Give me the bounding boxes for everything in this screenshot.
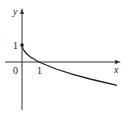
start-point-dot (20, 43, 24, 47)
y-axis-arrow-icon (20, 8, 24, 14)
graph: y x 0 1 1 (0, 0, 136, 117)
origin-label: 0 (13, 65, 18, 76)
y-axis-label: y (12, 6, 18, 17)
x-axis-label: x (113, 64, 119, 75)
y-tick-1-label: 1 (13, 40, 18, 51)
x-tick-1-label: 1 (37, 65, 42, 76)
